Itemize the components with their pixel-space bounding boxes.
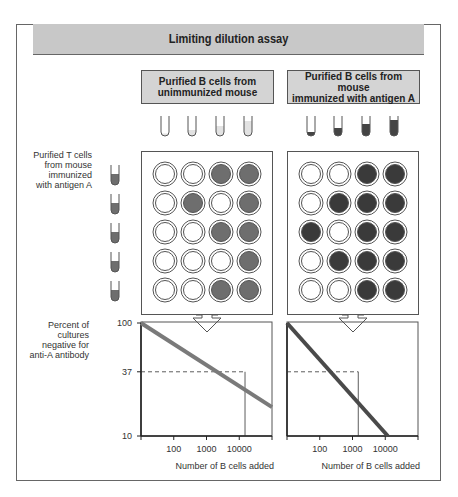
tcell-tube-icon-liquid	[111, 232, 119, 243]
well-negative-icon	[156, 252, 175, 271]
x-axis-title-right: Number of B cells added	[296, 461, 420, 471]
well-negative-icon	[184, 165, 203, 184]
well-negative-icon	[156, 194, 175, 213]
x-tick-label: 100	[166, 444, 181, 454]
tcell-tube-icon-liquid	[111, 261, 119, 272]
well-positive-icon	[358, 194, 377, 213]
well-positive-icon	[240, 194, 259, 213]
x-tick-label: 1000	[342, 444, 362, 454]
well-negative-icon	[330, 165, 349, 184]
well-negative-icon	[302, 281, 321, 300]
well-positive-icon	[358, 165, 377, 184]
x-tick-label: 10000	[227, 444, 252, 454]
b-cell-tube-icon-liquid	[362, 124, 370, 136]
tcell-tube-icon-liquid	[111, 203, 119, 214]
y-tick-label: 10	[122, 431, 132, 441]
well-positive-icon	[330, 252, 349, 271]
well-negative-icon	[156, 165, 175, 184]
x-tick-label: 10000	[373, 444, 398, 454]
well-negative-icon	[330, 223, 349, 242]
data-line	[287, 323, 388, 436]
x-tick-label: 100	[312, 444, 327, 454]
well-positive-icon	[212, 281, 231, 300]
well-positive-icon	[240, 165, 259, 184]
well-positive-icon	[240, 252, 259, 271]
well-positive-icon	[386, 223, 405, 242]
well-positive-icon	[240, 223, 259, 242]
well-negative-icon	[184, 281, 203, 300]
well-positive-icon	[358, 281, 377, 300]
well-negative-icon	[212, 252, 231, 271]
tcell-tube-icon-liquid	[111, 290, 119, 301]
well-positive-icon	[386, 281, 405, 300]
data-line	[141, 323, 272, 407]
well-negative-icon	[330, 281, 349, 300]
well-positive-icon	[330, 194, 349, 213]
well-positive-icon	[358, 223, 377, 242]
well-negative-icon	[184, 223, 203, 242]
b-cell-tube-icon-liquid	[390, 120, 398, 136]
y-tick-label: 37	[122, 367, 132, 377]
tcell-tube-icon-liquid	[111, 174, 119, 185]
x-tick-label: 1000	[196, 444, 216, 454]
well-positive-icon	[184, 194, 203, 213]
well-positive-icon	[212, 165, 231, 184]
chart-frame	[141, 322, 272, 436]
arrow-down-icon	[193, 315, 221, 332]
y-tick-label: 100	[117, 318, 132, 328]
well-negative-icon	[212, 194, 231, 213]
b-cell-tube-icon-liquid	[244, 121, 252, 136]
well-positive-icon	[358, 252, 377, 271]
well-positive-icon	[386, 252, 405, 271]
well-positive-icon	[386, 165, 405, 184]
well-positive-icon	[302, 223, 321, 242]
chart-frame	[287, 322, 418, 436]
well-positive-icon	[240, 281, 259, 300]
well-negative-icon	[156, 223, 175, 242]
well-negative-icon	[302, 165, 321, 184]
arrow-down-icon	[339, 315, 367, 332]
well-positive-icon	[386, 194, 405, 213]
well-positive-icon	[212, 223, 231, 242]
well-negative-icon	[156, 281, 175, 300]
well-negative-icon	[302, 252, 321, 271]
well-negative-icon	[184, 252, 203, 271]
diagram-graphics: 1001000100001001000100001003710	[0, 0, 458, 497]
x-axis-title-left: Number of B cells added	[150, 461, 274, 471]
well-negative-icon	[302, 194, 321, 213]
b-cell-tube-icon	[161, 116, 169, 136]
